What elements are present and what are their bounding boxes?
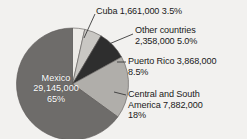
label-csa-line1: Central and South [128, 89, 203, 100]
label-puerto-rico-line1: Puerto Rico 3,868,000 [128, 56, 216, 67]
label-puerto-rico: Puerto Rico 3,868,000 8.5% [128, 56, 216, 77]
label-other-countries: Other countries 2,358,000 5.0% [135, 25, 197, 46]
label-other-line1: Other countries [135, 25, 197, 36]
label-mexico-line1: Mexico [14, 73, 98, 83]
label-other-line2: 2,358,000 5.0% [135, 36, 197, 47]
label-mexico-line2: 29,145,000 [14, 83, 98, 93]
label-csa-line3: 18% [128, 110, 203, 121]
label-central-south-america: Central and South America 7,882,000 18% [128, 89, 203, 121]
label-mexico-line3: 65% [14, 94, 98, 104]
label-mexico: Mexico 29,145,000 65% [14, 73, 98, 104]
pie-chart: Cuba 1,661,000 3.5% Other countries 2,35… [0, 0, 247, 139]
label-csa-line2: America 7,882,000 [128, 100, 203, 111]
label-puerto-rico-line2: 8.5% [128, 67, 216, 78]
leader-line-other [109, 34, 133, 44]
label-cuba: Cuba 1,661,000 3.5% [96, 6, 182, 17]
label-cuba-line1: Cuba 1,661,000 3.5% [96, 6, 182, 17]
